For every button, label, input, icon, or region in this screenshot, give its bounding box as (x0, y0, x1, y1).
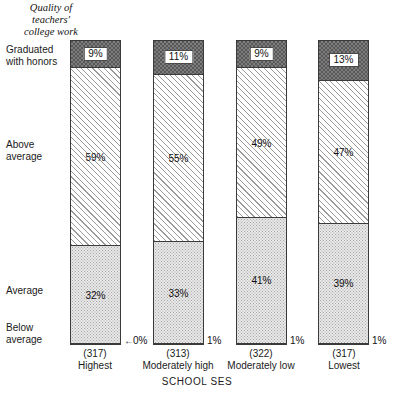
bar-lowest[interactable]: 13% 47% 39% (318, 40, 369, 345)
plot-area: 9% 59% 32% 11% 55% 33% (0, 0, 394, 397)
segment-moderately-high-above-average: 55% (154, 75, 203, 243)
segment-lowest-graduated-with-honors: 13% (319, 41, 368, 81)
segment-lowest-above-average: 47% (319, 81, 368, 224)
segment-moderately-low-graduated-with-honors: 9% (237, 41, 286, 68)
segment-value: 59% (83, 151, 107, 162)
segment-value: 41% (249, 275, 273, 286)
segment-highest-above-average: 59% (71, 68, 120, 246)
segment-value: 13% (328, 53, 358, 67)
stacked-bar-chart: Quality of teachers' college work Gradua… (0, 0, 394, 397)
segment-moderately-low-average: 41% (237, 218, 286, 343)
segment-moderately-high-average: 33% (154, 242, 203, 343)
segment-value: 9% (249, 47, 273, 61)
segment-value: 47% (331, 146, 355, 157)
segment-value: 32% (83, 289, 107, 300)
bar-highest[interactable]: 9% 59% 32% (70, 40, 121, 345)
segment-value: 49% (249, 137, 273, 148)
segment-moderately-high-graduated-with-honors: 11% (154, 41, 203, 75)
bar-moderately-low[interactable]: 9% 49% 41% (236, 40, 287, 345)
segment-value: 11% (164, 50, 193, 64)
x-tick-count: (317) (294, 348, 394, 360)
segment-value: 55% (166, 152, 190, 163)
x-tick-lowest: (317) Lowest (294, 348, 394, 372)
segment-highest-below-average (71, 343, 120, 345)
segment-moderately-high-below-average (154, 343, 203, 345)
segment-lowest-below-average (319, 343, 368, 345)
segment-value: 33% (166, 287, 190, 298)
callout-value-highest-below-average: 0% (133, 335, 147, 346)
segment-value: 9% (83, 47, 107, 61)
bar-moderately-high[interactable]: 11% 55% 33% (153, 40, 204, 345)
segment-moderately-low-below-average (237, 343, 286, 345)
callout-value-moderately-low-below-average: 1% (290, 335, 304, 346)
segment-highest-average: 32% (71, 246, 120, 343)
callout-value-lowest-below-average: 1% (372, 335, 386, 346)
segment-highest-graduated-with-honors: 9% (71, 41, 120, 68)
segment-value: 39% (331, 278, 355, 289)
x-tick-label: Lowest (294, 360, 394, 372)
callout-value-moderately-high-below-average: 1% (207, 335, 221, 346)
x-axis-title: SCHOOL SES (0, 376, 394, 387)
segment-lowest-average: 39% (319, 224, 368, 343)
segment-moderately-low-above-average: 49% (237, 68, 286, 217)
